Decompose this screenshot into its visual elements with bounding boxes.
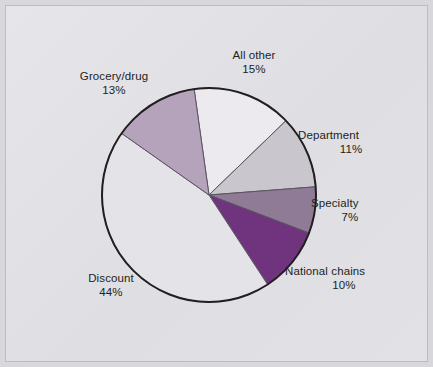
slice-label-discount-value: 44% xyxy=(56,285,166,299)
slice-label-specialty-value: 7% xyxy=(311,210,389,224)
slice-label-grocery-drug-name: Grocery/drug xyxy=(54,69,174,83)
slice-label-discount: Discount 44% xyxy=(56,271,166,299)
slice-label-specialty: Specialty 7% xyxy=(311,196,421,224)
chart-panel: All other 15% Department 11% Specialty 7… xyxy=(5,5,428,362)
slice-label-department: Department 11% xyxy=(298,128,418,156)
slice-label-national-chains-name: National chains xyxy=(285,264,420,278)
slice-label-department-name: Department xyxy=(298,128,418,142)
pie-slice-group xyxy=(102,88,316,302)
slice-label-all-other: All other 15% xyxy=(199,48,309,76)
slice-label-all-other-name: All other xyxy=(199,48,309,62)
slice-label-national-chains: National chains 10% xyxy=(285,264,420,292)
slice-label-national-chains-value: 10% xyxy=(285,278,403,292)
slice-label-all-other-value: 15% xyxy=(199,62,309,76)
slice-label-grocery-drug: Grocery/drug 13% xyxy=(54,69,174,97)
slice-label-specialty-name: Specialty xyxy=(311,196,421,210)
figure-canvas: All other 15% Department 11% Specialty 7… xyxy=(0,0,433,367)
slice-label-grocery-drug-value: 13% xyxy=(54,83,174,97)
pie-chart: All other 15% Department 11% Specialty 7… xyxy=(6,6,429,363)
slice-label-discount-name: Discount xyxy=(56,271,166,285)
slice-label-department-value: 11% xyxy=(298,142,404,156)
